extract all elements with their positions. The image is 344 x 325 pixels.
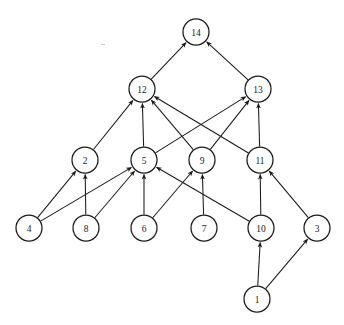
graph-node-13[interactable]: 13 [245,76,271,102]
graph-node-9[interactable]: 9 [189,147,215,173]
graph-node-1[interactable]: 1 [244,286,270,312]
graph-node-10[interactable]: 10 [248,215,274,241]
edge-3-to-11 [269,171,308,218]
edge-1-to-10 [258,242,260,285]
edge-12-to-14 [151,43,186,80]
stray-speck [101,44,105,45]
node-circle-9[interactable] [189,147,215,173]
node-circle-6[interactable] [131,215,157,241]
node-circle-7[interactable] [191,215,217,241]
node-circle-5[interactable] [131,147,157,173]
edge-8-to-5 [95,171,135,218]
node-circle-2[interactable] [72,147,98,173]
node-circle-1[interactable] [244,286,270,312]
edge-1-to-3 [266,239,308,289]
graph-node-3[interactable]: 3 [304,215,330,241]
graph-node-11[interactable]: 11 [247,147,273,173]
node-circle-10[interactable] [248,215,274,241]
graph-node-2[interactable]: 2 [72,147,98,173]
graph-node-7[interactable]: 7 [191,215,217,241]
graph-node-12[interactable]: 12 [129,76,155,102]
dag-figure: 1412132591148671031 [0,0,344,325]
dag-canvas: 1412132591148671031 [0,0,344,325]
edge-2-to-12 [93,100,132,149]
node-circle-11[interactable] [247,147,273,173]
node-circle-14[interactable] [183,19,209,45]
edge-10-to-11 [260,175,261,215]
node-circle-13[interactable] [245,76,271,102]
edge-5-to-12 [142,103,143,146]
graph-node-14[interactable]: 14 [183,19,209,45]
graph-node-5[interactable]: 5 [131,147,157,173]
edge-7-to-9 [202,174,203,214]
graph-node-6[interactable]: 6 [131,215,157,241]
graph-node-4[interactable]: 4 [16,215,42,241]
node-circle-8[interactable] [73,215,99,241]
node-circle-12[interactable] [129,76,155,102]
node-circle-4[interactable] [16,215,42,241]
edge-4-to-2 [38,171,76,217]
edge-13-to-14 [207,42,248,80]
node-circle-3[interactable] [304,215,330,241]
graph-node-8[interactable]: 8 [73,215,99,241]
edge-11-to-13 [258,103,259,146]
edge-6-to-9 [153,171,193,218]
